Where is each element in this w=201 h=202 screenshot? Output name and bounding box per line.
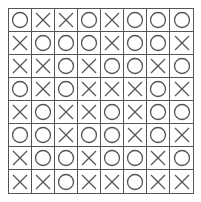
x-mark-icon [149, 149, 167, 167]
board-cell[interactable] [147, 55, 170, 78]
board-cell[interactable] [78, 170, 101, 193]
o-mark-icon [80, 11, 98, 29]
board-cell[interactable] [170, 78, 193, 101]
o-mark-icon [57, 80, 75, 98]
board-cell[interactable] [170, 9, 193, 32]
x-mark-icon [34, 80, 52, 98]
o-mark-icon [11, 126, 29, 144]
board-cell[interactable] [9, 124, 32, 147]
board-cell[interactable] [147, 101, 170, 124]
board-cell[interactable] [170, 170, 193, 193]
board-cell[interactable] [124, 170, 147, 193]
o-mark-icon [57, 57, 75, 75]
o-mark-icon [173, 11, 191, 29]
board-cell[interactable] [78, 55, 101, 78]
o-mark-icon [149, 126, 167, 144]
o-mark-icon [11, 80, 29, 98]
board-cell[interactable] [170, 147, 193, 170]
board-cell[interactable] [170, 101, 193, 124]
x-mark-icon [34, 11, 52, 29]
board-cell[interactable] [147, 9, 170, 32]
x-mark-icon [11, 103, 29, 121]
board-cell[interactable] [9, 147, 32, 170]
board-cell[interactable] [32, 9, 55, 32]
board-cell[interactable] [78, 32, 101, 55]
o-mark-icon [34, 149, 52, 167]
o-mark-icon [149, 80, 167, 98]
board-cell[interactable] [101, 55, 124, 78]
board-cell[interactable] [78, 9, 101, 32]
board-cell[interactable] [124, 147, 147, 170]
board-cell[interactable] [101, 78, 124, 101]
board-cell[interactable] [9, 78, 32, 101]
x-mark-icon [11, 149, 29, 167]
x-mark-icon [11, 57, 29, 75]
board-cell[interactable] [124, 9, 147, 32]
board-cell[interactable] [147, 147, 170, 170]
x-mark-icon [103, 80, 121, 98]
x-mark-icon [103, 173, 121, 191]
x-mark-icon [149, 57, 167, 75]
board-cell[interactable] [101, 9, 124, 32]
board-cell[interactable] [32, 78, 55, 101]
board-cell[interactable] [170, 55, 193, 78]
board-cell[interactable] [124, 32, 147, 55]
board-cell[interactable] [32, 147, 55, 170]
board-cell[interactable] [9, 55, 32, 78]
x-mark-icon [173, 34, 191, 52]
board-cell[interactable] [101, 124, 124, 147]
x-mark-icon [34, 57, 52, 75]
board-cell[interactable] [55, 147, 78, 170]
board-cell[interactable] [55, 32, 78, 55]
board-cell[interactable] [55, 55, 78, 78]
board-cell[interactable] [55, 9, 78, 32]
board-cell[interactable] [78, 147, 101, 170]
board-cell[interactable] [78, 124, 101, 147]
board-cell[interactable] [170, 124, 193, 147]
board-cell[interactable] [101, 147, 124, 170]
x-mark-icon [34, 173, 52, 191]
o-mark-icon [57, 149, 75, 167]
o-mark-icon [173, 149, 191, 167]
o-mark-icon [34, 34, 52, 52]
o-mark-icon [103, 126, 121, 144]
board-cell[interactable] [32, 55, 55, 78]
board-cell[interactable] [147, 78, 170, 101]
board-cell[interactable] [101, 32, 124, 55]
x-mark-icon [126, 126, 144, 144]
x-mark-icon [57, 126, 75, 144]
board-cell[interactable] [9, 32, 32, 55]
board-cell[interactable] [55, 101, 78, 124]
board-cell[interactable] [124, 124, 147, 147]
board-cell[interactable] [9, 170, 32, 193]
board-cell[interactable] [170, 32, 193, 55]
board-cell[interactable] [32, 170, 55, 193]
board-cell[interactable] [9, 101, 32, 124]
board-cell[interactable] [124, 78, 147, 101]
board-cell[interactable] [55, 170, 78, 193]
board-cell[interactable] [147, 170, 170, 193]
o-mark-icon [126, 34, 144, 52]
board-cell[interactable] [55, 78, 78, 101]
x-mark-icon [11, 173, 29, 191]
board-cell[interactable] [101, 101, 124, 124]
board-cell[interactable] [124, 101, 147, 124]
board-cell[interactable] [55, 124, 78, 147]
board-cell[interactable] [147, 124, 170, 147]
board-cell[interactable] [147, 32, 170, 55]
board-cell[interactable] [78, 78, 101, 101]
board-cell[interactable] [124, 55, 147, 78]
board-cell[interactable] [9, 9, 32, 32]
board-cell[interactable] [32, 101, 55, 124]
o-mark-icon [149, 34, 167, 52]
o-mark-icon [80, 34, 98, 52]
o-mark-icon [34, 103, 52, 121]
board-cell[interactable] [32, 124, 55, 147]
x-mark-icon [80, 57, 98, 75]
o-mark-icon [103, 103, 121, 121]
o-mark-icon [57, 173, 75, 191]
board-cell[interactable] [78, 101, 101, 124]
x-mark-icon [11, 34, 29, 52]
board-cell[interactable] [101, 170, 124, 193]
board-cell[interactable] [32, 32, 55, 55]
